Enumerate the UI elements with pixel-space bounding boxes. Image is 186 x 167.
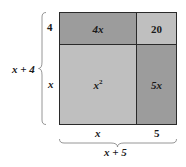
cell-x-squared: x2 [60,45,137,124]
cell-20-label: 20 [151,23,162,35]
cell-x-squared-label: x2 [94,78,103,91]
cell-5x-label: 5x [151,79,162,91]
left-label-x: x [48,78,54,90]
cell-4x: 4x [60,13,137,45]
cell-20: 20 [137,13,176,45]
area-model-square: 4x 20 x2 5x [59,12,177,125]
left-label-total: x + 4 [12,63,35,75]
left-brace-icon [38,12,48,125]
bottom-brace-icon [59,138,177,148]
cell-5x: 5x [137,45,176,124]
cell-4x-label: 4x [93,23,104,35]
